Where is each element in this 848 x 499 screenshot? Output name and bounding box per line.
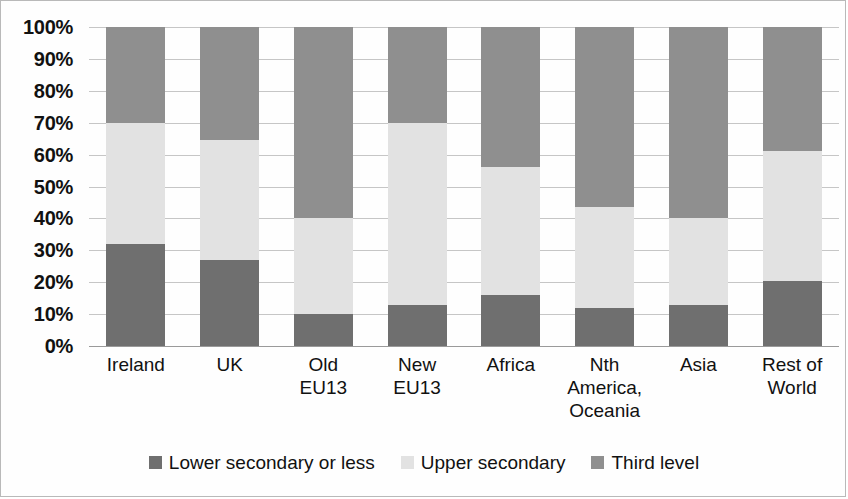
legend-swatch-icon [401, 456, 414, 469]
y-axis-tick-label: 0% [45, 335, 73, 358]
legend-item[interactable]: Upper secondary [401, 453, 566, 472]
bar-slot [745, 27, 839, 346]
bar-segment[interactable] [106, 244, 165, 346]
bar-segment[interactable] [388, 27, 447, 123]
bar-slot [370, 27, 464, 346]
stacked-bar[interactable] [575, 27, 634, 346]
y-axis-tick-label: 60% [34, 143, 73, 166]
legend-label: Lower secondary or less [169, 453, 375, 472]
bar-segment[interactable] [669, 27, 728, 218]
y-axis-tick-label: 100% [23, 16, 73, 39]
bar-segment[interactable] [106, 27, 165, 123]
legend-item[interactable]: Lower secondary or less [149, 453, 375, 472]
bar-segment[interactable] [763, 27, 822, 151]
bar-segment[interactable] [388, 305, 447, 346]
chart-legend: Lower secondary or lessUpper secondaryTh… [1, 453, 847, 472]
legend-swatch-icon [591, 456, 604, 469]
y-axis-tick-label: 80% [34, 79, 73, 102]
y-axis-tick-label: 50% [34, 175, 73, 198]
bar-segment[interactable] [200, 140, 259, 260]
y-axis-tick-label: 70% [34, 111, 73, 134]
bar-slot [558, 27, 652, 346]
x-axis-tick-label: UK [183, 353, 277, 422]
bar-segment[interactable] [481, 27, 540, 167]
legend-swatch-icon [149, 456, 162, 469]
bar-segment[interactable] [200, 260, 259, 346]
y-axis-tick-label: 30% [34, 239, 73, 262]
stacked-bar[interactable] [669, 27, 728, 346]
gridline [89, 346, 839, 347]
bar-slot [89, 27, 183, 346]
y-axis-tick-label: 90% [34, 47, 73, 70]
x-axis-tick-label: Old EU13 [277, 353, 371, 422]
bar-segment[interactable] [575, 308, 634, 346]
bar-segment[interactable] [575, 27, 634, 207]
bar-slot [652, 27, 746, 346]
stacked-bar[interactable] [763, 27, 822, 346]
bar-segment[interactable] [388, 123, 447, 305]
y-axis-tick-label: 20% [34, 271, 73, 294]
bar-slot [464, 27, 558, 346]
bar-segment[interactable] [575, 207, 634, 307]
x-axis-tick-label: Asia [652, 353, 746, 422]
bar-segment[interactable] [294, 218, 353, 314]
stacked-bar[interactable] [200, 27, 259, 346]
bar-slot [277, 27, 371, 346]
x-axis-tick-label: Ireland [89, 353, 183, 422]
bar-group [89, 27, 839, 346]
y-axis: 100%90%80%70%60%50%40%30%20%10%0% [1, 27, 81, 346]
x-axis-tick-label: Rest of World [745, 353, 839, 422]
bar-segment[interactable] [106, 123, 165, 244]
bar-slot [183, 27, 277, 346]
x-axis-tick-label: New EU13 [370, 353, 464, 422]
bar-segment[interactable] [763, 151, 822, 280]
bar-segment[interactable] [481, 295, 540, 346]
bar-segment[interactable] [200, 27, 259, 140]
stacked-bar[interactable] [388, 27, 447, 346]
stacked-bar[interactable] [106, 27, 165, 346]
x-axis: IrelandUKOld EU13New EU13AfricaNth Ameri… [89, 353, 839, 422]
bar-segment[interactable] [294, 314, 353, 346]
plot-area [89, 27, 839, 346]
stacked-bar-chart: 100%90%80%70%60%50%40%30%20%10%0% Irelan… [0, 0, 846, 497]
x-axis-tick-label: Nth America, Oceania [558, 353, 652, 422]
bar-segment[interactable] [763, 281, 822, 346]
bar-segment[interactable] [669, 305, 728, 346]
y-axis-tick-label: 10% [34, 303, 73, 326]
bar-segment[interactable] [481, 167, 540, 295]
legend-label: Upper secondary [421, 453, 566, 472]
x-axis-tick-label: Africa [464, 353, 558, 422]
legend-item[interactable]: Third level [591, 453, 699, 472]
bar-segment[interactable] [294, 27, 353, 218]
stacked-bar[interactable] [481, 27, 540, 346]
legend-label: Third level [611, 453, 699, 472]
bar-segment[interactable] [669, 218, 728, 304]
stacked-bar[interactable] [294, 27, 353, 346]
y-axis-tick-label: 40% [34, 207, 73, 230]
